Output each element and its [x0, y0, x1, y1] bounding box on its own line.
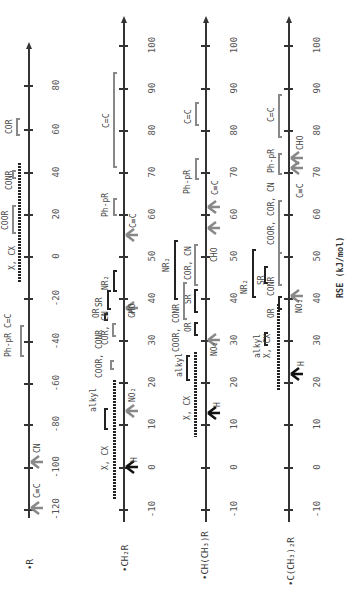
tick — [284, 256, 293, 258]
tick — [119, 382, 128, 384]
group-label-alkyl: alkyl — [175, 353, 184, 377]
tick-label: 10 — [147, 409, 157, 439]
tick-label: -60 — [51, 368, 61, 398]
arrow-alkyne-icon — [30, 500, 44, 516]
group-label-or: OR — [92, 308, 101, 318]
tick-label: 20 — [312, 367, 322, 397]
group-label-x-cx: X, CX — [101, 446, 110, 470]
tick-label: 70 — [147, 157, 157, 187]
arrow-cho-icon — [207, 220, 221, 236]
tick — [284, 467, 293, 469]
tick — [119, 424, 128, 426]
tick-label: 40 — [147, 283, 157, 313]
group-label-coor-conr: COOR, CONR — [172, 304, 181, 352]
arrow-label-alkyne: C≡C — [211, 181, 220, 195]
group-dotted-x-cx — [18, 163, 21, 283]
x-axis-label: RSE (kJ/mol) — [335, 237, 345, 298]
tick — [24, 256, 33, 258]
arrow-label-no2: NO₂ — [295, 299, 304, 313]
tick — [119, 88, 128, 90]
tick-label: 40 — [229, 283, 239, 313]
tick — [119, 340, 128, 342]
axis-arrowhead — [26, 42, 32, 49]
arrow-label-alkyne: C≡C — [296, 184, 305, 198]
arrow-h-icon — [207, 405, 221, 421]
group-label-cor: COR — [5, 120, 14, 134]
group-label-ph-pr-cc: Ph-pR C=C — [4, 314, 13, 357]
tick-label: 90 — [229, 73, 239, 103]
tick — [201, 172, 210, 174]
tick — [201, 298, 210, 300]
radical-label-ch2r: •CH₂R — [120, 545, 130, 572]
axis-line — [288, 22, 290, 522]
tick — [24, 214, 33, 216]
tick — [284, 88, 293, 90]
tick-label: 100 — [312, 30, 322, 60]
group-label-sr: SR — [95, 297, 104, 307]
group-bracket-alkyl — [186, 355, 190, 381]
tick — [284, 130, 293, 132]
radical-label-chch3r: •CH(CH₃)R — [200, 531, 210, 580]
tick-label: 20 — [147, 367, 157, 397]
tick-label: 40 — [312, 283, 322, 313]
tick-label: 100 — [147, 30, 157, 60]
tick — [119, 172, 128, 174]
axis-line — [123, 22, 125, 522]
tick-label: 0 — [229, 452, 239, 482]
axis-line — [205, 22, 207, 522]
tick-label: 70 — [229, 157, 239, 187]
group-bracket-coor-conr — [183, 282, 187, 320]
tick-label: 60 — [312, 199, 322, 229]
tick — [201, 45, 210, 47]
tick-label: 10 — [229, 409, 239, 439]
tick — [201, 88, 210, 90]
tick-label: -40 — [51, 326, 61, 356]
tick-label: -100 — [51, 452, 61, 482]
tick-label: -120 — [51, 494, 61, 524]
tick — [119, 130, 128, 132]
tick — [24, 129, 33, 131]
group-bracket-cor-cn — [194, 244, 198, 286]
group-label-nr2: NR₂ — [240, 280, 249, 294]
group-bracket-coor-conr — [110, 360, 114, 370]
arrow-label-cho: CHO — [128, 304, 137, 318]
tick — [201, 130, 210, 132]
tick-label: -10 — [312, 494, 322, 524]
arrow-label-h: H — [213, 402, 222, 407]
group-bracket-sr — [252, 249, 256, 298]
radical-label-cch32r: •C(CH₃)₂R — [286, 537, 296, 586]
tick — [119, 509, 128, 511]
group-bracket-coor — [12, 205, 16, 234]
arrow-label-h: H — [130, 457, 139, 462]
tick-label: -20 — [51, 283, 61, 313]
arrow-cho-icon — [290, 150, 304, 166]
tick-label: 0 — [312, 452, 322, 482]
tick — [24, 341, 33, 343]
group-bracket-alkyl — [104, 408, 108, 430]
tick-label: 60 — [51, 114, 61, 144]
tick — [284, 45, 293, 47]
group-label-or: OR — [184, 322, 193, 332]
tick — [201, 256, 210, 258]
axis-arrowhead — [203, 16, 209, 23]
tick — [201, 382, 210, 384]
arrow-label-cho: CHO — [210, 248, 219, 262]
group-dotted-x-cx — [194, 352, 197, 437]
group-label-cc: C=C — [102, 114, 111, 128]
group-label-coor: COOR — [1, 211, 10, 230]
arrow-alkyne-icon — [207, 199, 221, 215]
tick — [24, 424, 33, 426]
group-label-ph-pr: Ph-pR — [101, 193, 110, 217]
group-label-cc: C=C — [267, 108, 276, 122]
group-bracket-ph-pr-cc — [20, 325, 24, 357]
group-bracket-or — [194, 322, 198, 336]
tick-label: 50 — [229, 241, 239, 271]
group-bracket-ph-pr — [113, 198, 117, 216]
arrow-label-h: H — [297, 361, 306, 366]
tick-label: 20 — [229, 367, 239, 397]
tick — [24, 172, 33, 174]
tick — [119, 45, 128, 47]
tick — [119, 214, 128, 216]
tick-label: 50 — [147, 241, 157, 271]
group-label-nr2: NR₂ — [101, 276, 110, 290]
